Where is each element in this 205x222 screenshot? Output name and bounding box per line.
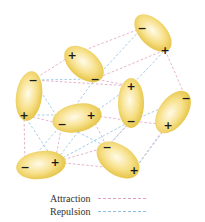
negative-pole-sign: − [126,115,135,128]
attraction-line-sample [98,198,146,199]
attraction-line [165,50,186,98]
dipole-molecule [148,84,198,139]
attraction-line [95,50,165,79]
positive-pole-sign: + [160,44,169,57]
attraction-label: Attraction [50,193,96,204]
positive-pole-sign: + [50,156,59,169]
negative-pole-sign: − [20,161,29,174]
dipole-diagram: +−+−+−+−+−+−+−+− [0,0,205,222]
repulsion-line-sample [98,211,146,212]
positive-pole-sign: + [19,109,28,122]
positive-pole-sign: + [126,80,135,93]
dipole-molecule [90,134,147,186]
legend-attraction: Attraction [50,193,146,204]
dipole-molecule [128,8,179,59]
molecules: +−+−+−+−+−+−+−+− [13,8,199,187]
negative-pole-sign: − [57,118,66,131]
negative-pole-sign: − [102,141,111,154]
repulsion-label: Repulsion [50,206,96,217]
negative-pole-sign: − [137,22,146,35]
positive-pole-sign: + [129,164,138,177]
positive-pole-sign: + [67,49,76,62]
negative-pole-sign: − [90,73,99,86]
positive-pole-sign: + [86,109,95,122]
negative-pole-sign: − [28,74,37,87]
positive-pole-sign: + [163,119,172,132]
negative-pole-sign: − [181,92,190,105]
legend-repulsion: Repulsion [50,206,146,217]
